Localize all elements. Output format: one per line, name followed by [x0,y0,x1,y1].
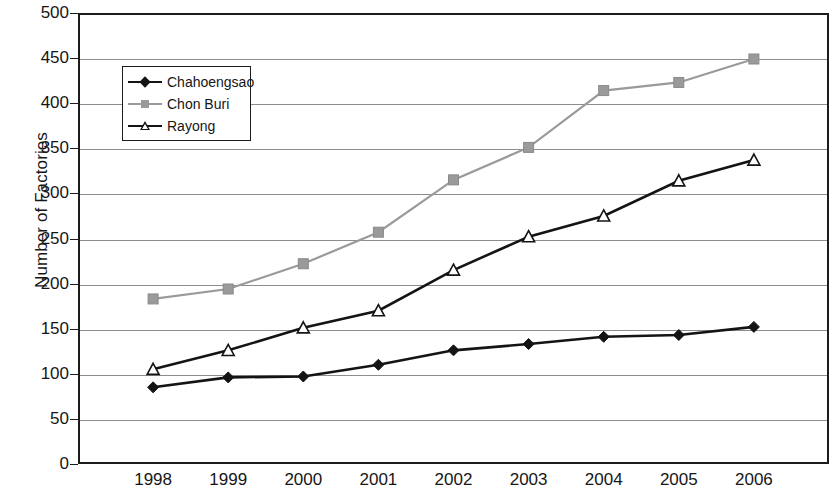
gridline [80,420,827,421]
y-tick-label: 200 [9,274,69,294]
y-tick-mark [70,329,78,330]
y-tick-label: 0 [9,454,69,474]
chart-legend: ChahoengsaoChon BuriRayong [122,66,251,141]
gridline [80,285,827,286]
x-tick-label: 2006 [719,470,789,490]
x-tick-label: 2000 [268,470,338,490]
y-tick-label: 100 [9,364,69,384]
x-tick-label: 2004 [569,470,639,490]
legend-marker-diamond-filled-icon [128,75,162,89]
y-tick-mark [70,464,78,465]
gridline [80,194,827,195]
y-tick-mark [70,13,78,14]
y-tick-mark [70,193,78,194]
x-tick-label: 2001 [343,470,413,490]
x-tick-label: 2002 [419,470,489,490]
x-tick-label: 2005 [644,470,714,490]
y-tick-label: 450 [9,48,69,68]
y-tick-label: 350 [9,138,69,158]
x-tick-label: 1998 [118,470,188,490]
gridline [80,149,827,150]
y-tick-label: 50 [9,409,69,429]
gridline [80,330,827,331]
y-tick-label: 150 [9,319,69,339]
legend-item-chon-buri[interactable]: Chon Buri [123,93,250,115]
y-tick-mark [70,374,78,375]
x-tick-label: 2003 [494,470,564,490]
gridline [80,240,827,241]
y-tick-mark [70,284,78,285]
y-axis-title: Number of Factories [32,80,52,340]
x-tick-label: 1999 [193,470,263,490]
y-tick-label: 250 [9,229,69,249]
y-tick-label: 300 [9,183,69,203]
legend-item-label: Chon Buri [167,97,229,111]
legend-item-label: Chahoengsao [167,75,254,89]
y-tick-mark [70,419,78,420]
y-tick-mark [70,58,78,59]
gridline [80,375,827,376]
factories-line-chart: Number of Factories 50045040035030025020… [0,0,835,497]
legend-marker-square-filled-icon [128,97,162,111]
y-tick-label: 400 [9,93,69,113]
y-tick-mark [70,148,78,149]
y-tick-mark [70,239,78,240]
legend-item-label: Rayong [167,119,215,133]
y-tick-label: 500 [9,3,69,23]
y-tick-mark [70,103,78,104]
gridline [80,59,827,60]
legend-item-rayong[interactable]: Rayong [123,115,250,137]
legend-item-chahoengsao[interactable]: Chahoengsao [123,71,250,93]
legend-marker-triangle-hollow-icon [128,119,162,133]
